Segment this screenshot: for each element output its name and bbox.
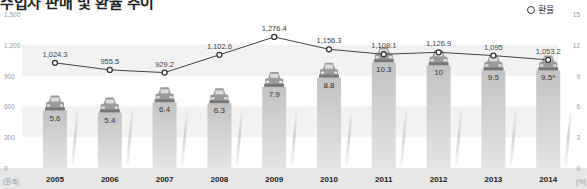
line-point [217,52,222,57]
right-axis-unit: (%) [576,178,586,186]
bar-value-label: 9.5 [488,73,500,82]
car-icon [155,87,175,102]
bar-value-label: 10.3 [376,65,392,74]
bar-value-label: 7.9 [269,90,281,99]
bar-shadow [564,106,572,165]
right-tick-label: 0 [576,165,580,172]
car-icon [45,96,65,111]
x-tick-label: 2010 [320,175,338,184]
line-value-label: 1,108.1 [371,41,396,50]
line-value-label: 1,102.6 [207,42,232,51]
left-tick-label: 1,500 [4,11,21,18]
right-tick-label: 3 [576,134,580,141]
line-point [162,70,167,75]
line-point [436,50,441,55]
line-point [546,57,551,62]
line-value-label: 1,126.9 [426,39,451,48]
line-value-label: 1,024.3 [42,50,67,59]
right-tick-label: 9 [576,73,580,80]
chart: 03006009001,2001,500(원/$)03691215(%) 5.6… [0,0,587,189]
left-tick-label: 900 [4,73,15,80]
bar-value-label: 5.6 [49,114,61,123]
bar-value-label: 6.3 [214,106,226,115]
x-tick-label: 2009 [265,175,283,184]
bar [536,70,560,168]
bar-value-label: 5.4 [104,116,116,125]
x-tick-label: 2013 [485,175,503,184]
bar [427,65,451,168]
left-axis-unit: (원/$) [3,177,19,186]
left-tick-label: 600 [4,103,15,110]
bar [481,70,505,168]
car-icon [100,98,120,113]
x-tick-label: 2006 [101,175,119,184]
line-point [53,60,58,65]
x-tick-label: 2005 [46,175,64,184]
left-tick-label: 300 [4,134,15,141]
bar [372,62,396,168]
right-tick-label: 15 [573,11,581,18]
line-value-label: 1,276.4 [262,24,287,33]
bar-value-label: 8.8 [323,81,335,90]
line-point [107,67,112,72]
line-point [381,52,386,57]
bar [317,78,341,168]
line-value-label: 929.2 [155,60,174,69]
line-value-label: 1,156.3 [316,36,341,45]
line-point [491,53,496,58]
bar [262,87,286,168]
line-value-label: 1,053.2 [536,47,561,56]
line-point [327,47,332,52]
left-tick-label: 1,200 [4,42,21,49]
left-tick-label: 0 [4,165,8,172]
bar-value-label: 6.4 [159,105,171,114]
x-tick-label: 2007 [156,175,174,184]
bar-value-label: 9.5* [541,73,555,82]
bar-value-label: 10 [434,68,443,77]
line-point [272,34,277,39]
right-tick-label: 6 [576,103,580,110]
car-icon [209,88,229,103]
line-value-label: 955.5 [100,57,119,66]
x-tick-label: 2012 [430,175,448,184]
right-tick-label: 12 [573,42,581,49]
x-tick-label: 2011 [375,175,393,184]
x-tick-label: 2008 [211,175,229,184]
line-value-label: 1,095 [484,43,503,52]
x-tick-label: 2014 [539,175,557,184]
